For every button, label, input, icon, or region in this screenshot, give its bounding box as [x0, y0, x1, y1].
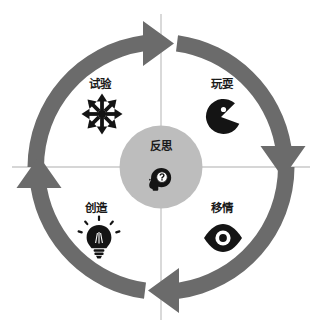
quadrant-label-experiment: 试验 — [62, 79, 138, 91]
pacman-icon — [203, 96, 241, 137]
eye-icon — [204, 224, 242, 252]
diagram-canvas — [0, 0, 322, 334]
lightbulb-icon — [77, 216, 120, 259]
cycle-diagram: 试验 玩耍 创造 移情 反思 — [0, 0, 322, 334]
center-circle — [120, 126, 203, 209]
quadrant-label-empathy: 移情 — [184, 203, 260, 215]
quadrant-label-create: 创造 — [58, 203, 134, 215]
quadrant-label-play: 玩耍 — [184, 79, 260, 91]
snowflake-expand-arrows-icon — [82, 94, 123, 135]
center-label-reflection: 反思 — [123, 141, 199, 153]
